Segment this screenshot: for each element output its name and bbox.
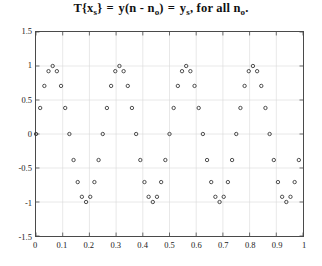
y-tick-label: 0.5 — [21, 95, 32, 105]
x-tick-label: 0.5 — [164, 240, 175, 250]
y-tick-label: -1.5 — [19, 232, 32, 242]
title-expression: T{xs} = y(n - no) = ys, for all no. — [73, 1, 248, 15]
x-tick-label: 0.1 — [57, 240, 68, 250]
plot-frame — [35, 31, 304, 237]
y-tick-label: 0 — [28, 129, 32, 139]
x-axis-tick-labels: 00.10.20.30.40.50.60.70.80.91 — [35, 240, 304, 254]
y-axis-tick-labels: 1.510.50-0.5-1-1.5 — [0, 31, 32, 237]
figure-panel: T{xs} = y(n - no) = ys, for all no. 1.51… — [0, 0, 322, 266]
x-tick-label: 0.6 — [191, 240, 202, 250]
x-tick-label: 0.3 — [110, 240, 121, 250]
y-tick-label: 1 — [28, 60, 32, 70]
x-tick-label: 0.4 — [137, 240, 148, 250]
scatter-series — [36, 32, 303, 236]
figure-title: T{xs} = y(n - no) = ys, for all no. — [0, 1, 322, 17]
x-tick-label: 0.7 — [218, 240, 229, 250]
y-tick-label: -0.5 — [19, 163, 32, 173]
x-tick-label: 1 — [302, 240, 306, 250]
x-tick-label: 0.8 — [245, 240, 256, 250]
x-tick-label: 0.9 — [272, 240, 283, 250]
x-tick-label: 0.2 — [83, 240, 94, 250]
y-tick-label: -1 — [25, 198, 32, 208]
y-tick-label: 1.5 — [21, 26, 32, 36]
x-tick-label: 0 — [33, 240, 37, 250]
